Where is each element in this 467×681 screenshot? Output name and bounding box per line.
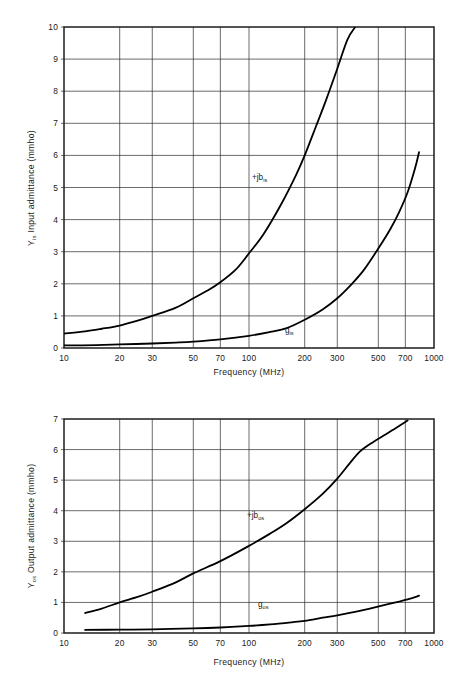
y-axis-title: Yos Output admittance (mmho) — [26, 464, 37, 589]
x-tick-label: 300 — [330, 638, 345, 648]
y-tick-label: 3 — [53, 536, 58, 546]
output-admittance-chart: 10203050701002003005007001000 01234567 F… — [0, 390, 467, 681]
y-tick-label: 6 — [53, 150, 58, 160]
y-tick-labels: 01234567 — [53, 414, 64, 638]
input-admittance-figure: 10203050701002003005007001000 0123456789… — [0, 0, 467, 390]
x-tick-label: 70 — [215, 353, 225, 363]
y-tick-label: 3 — [53, 247, 58, 257]
svg-text:Frequency (MHz): Frequency (MHz) — [214, 367, 285, 377]
x-tick-label: 1000 — [424, 353, 444, 363]
gridlines — [64, 27, 434, 348]
y-tick-label: 2 — [53, 279, 58, 289]
y-axis-title: Yis Input admittance (mmho) — [26, 130, 37, 246]
y-tick-label: 1 — [53, 597, 58, 607]
y-tick-label: 4 — [53, 215, 58, 225]
y-tick-label: 1 — [53, 311, 58, 321]
y-tick-label: 4 — [53, 506, 58, 516]
y-tick-label: 5 — [53, 475, 58, 485]
x-tick-label: 30 — [147, 638, 157, 648]
x-tick-label: 50 — [188, 353, 198, 363]
x-tick-label: 300 — [330, 353, 345, 363]
x-axis-title: Frequency (MHz) — [214, 657, 285, 667]
y-tick-labels: 012345678910 — [48, 22, 64, 353]
y-tick-label: 2 — [53, 567, 58, 577]
x-tick-label: 30 — [147, 353, 157, 363]
x-tick-label: 70 — [215, 638, 225, 648]
x-axis-title: Frequency (MHz) — [214, 367, 285, 377]
svg-text:Frequency (MHz): Frequency (MHz) — [214, 657, 285, 667]
x-tick-labels: 10203050701002003005007001000 — [59, 353, 444, 363]
y-tick-label: 7 — [53, 118, 58, 128]
x-tick-label: 100 — [242, 638, 257, 648]
x-tick-label: 700 — [398, 638, 413, 648]
y-tick-label: 7 — [53, 414, 58, 424]
y-tick-label: 0 — [53, 628, 58, 638]
y-tick-label: 5 — [53, 183, 58, 193]
x-tick-label: 500 — [371, 353, 386, 363]
x-tick-label: 200 — [297, 353, 312, 363]
y-tick-label: 8 — [53, 86, 58, 96]
x-tick-label: 10 — [59, 353, 69, 363]
y-tick-label: 6 — [53, 445, 58, 455]
x-tick-labels: 10203050701002003005007001000 — [59, 638, 444, 648]
y-tick-label: 9 — [53, 54, 58, 64]
output-admittance-figure: 10203050701002003005007001000 01234567 F… — [0, 390, 467, 681]
svg-text:Yis Input admittance (mmho): Yis Input admittance (mmho) — [26, 130, 37, 246]
y-tick-label: 0 — [53, 343, 58, 353]
gridlines — [64, 419, 434, 633]
input-admittance-chart: 10203050701002003005007001000 0123456789… — [0, 0, 467, 390]
y-tick-label: 10 — [48, 22, 58, 32]
x-tick-label: 500 — [371, 638, 386, 648]
x-tick-label: 20 — [115, 638, 125, 648]
x-tick-label: 20 — [115, 353, 125, 363]
x-tick-label: 50 — [188, 638, 198, 648]
x-tick-label: 700 — [398, 353, 413, 363]
x-tick-label: 100 — [242, 353, 257, 363]
svg-text:Yos Output admittance (mmho): Yos Output admittance (mmho) — [26, 464, 37, 589]
x-tick-label: 1000 — [424, 638, 444, 648]
x-tick-label: 200 — [297, 638, 312, 648]
x-tick-label: 10 — [59, 638, 69, 648]
